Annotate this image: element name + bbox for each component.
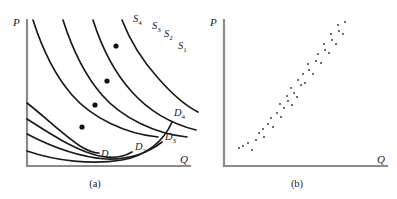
scatter-point bbox=[280, 116, 282, 118]
scatter-point bbox=[323, 43, 325, 45]
scatter-point bbox=[302, 73, 304, 75]
scatter-point bbox=[297, 79, 299, 81]
scatter-point bbox=[320, 62, 322, 64]
panel-a-supply-demand: P Q S1 S2 S3 S4 D1 D2 D3 bbox=[0, 0, 200, 199]
scatter-point bbox=[300, 84, 302, 86]
supply-label-s4: S4 bbox=[133, 13, 142, 27]
scatter-point bbox=[287, 100, 289, 102]
scatter-point bbox=[258, 132, 260, 134]
scatter-point bbox=[328, 52, 330, 54]
scatter-point bbox=[344, 21, 346, 23]
panel-b-axes bbox=[224, 20, 387, 166]
supply-label-s2: S2 bbox=[164, 28, 173, 42]
demand-label-d2: D2 bbox=[134, 141, 147, 155]
supply-label-s1: S1 bbox=[178, 40, 187, 54]
panel-a-caption: (a) bbox=[89, 178, 101, 190]
scatter-point bbox=[338, 30, 340, 32]
panel-b-caption: (b) bbox=[291, 178, 304, 190]
panel-a-axes bbox=[27, 20, 190, 166]
scatter-point bbox=[293, 92, 295, 94]
scatter-point bbox=[276, 112, 278, 114]
equilibrium-dot bbox=[113, 43, 118, 48]
demand-curve-d2 bbox=[27, 119, 132, 157]
panel-b-scatter: P Q (b) bbox=[197, 0, 397, 199]
scatter-point bbox=[290, 87, 292, 89]
scatter-point bbox=[330, 33, 332, 35]
panel-a-x-axis-label: Q bbox=[180, 153, 188, 165]
scatter-point bbox=[283, 107, 285, 109]
scatter-point bbox=[272, 126, 274, 128]
scatter-point bbox=[263, 136, 265, 138]
scatter-point bbox=[251, 149, 253, 151]
equilibrium-dot bbox=[79, 124, 84, 129]
scatter-point-group bbox=[238, 21, 346, 151]
scatter-point bbox=[308, 69, 310, 71]
panel-a-y-axis-label: P bbox=[12, 16, 20, 28]
scatter-point bbox=[315, 60, 317, 62]
scatter-point bbox=[317, 53, 319, 55]
scatter-point bbox=[286, 95, 288, 97]
scatter-point bbox=[242, 145, 244, 147]
figure-container: P Q S1 S2 S3 S4 D1 D2 D3 bbox=[0, 0, 397, 199]
scatter-point bbox=[304, 82, 306, 84]
scatter-point bbox=[296, 96, 298, 98]
demand-label-d1: D1 bbox=[100, 148, 113, 162]
panel-b-x-axis-label: Q bbox=[377, 153, 385, 165]
scatter-point bbox=[247, 142, 249, 144]
scatter-point bbox=[331, 39, 333, 41]
scatter-point bbox=[262, 128, 264, 130]
scatter-point bbox=[267, 123, 269, 125]
scatter-point bbox=[342, 33, 344, 35]
scatter-point bbox=[312, 73, 314, 75]
scatter-point bbox=[335, 43, 337, 45]
scatter-point bbox=[324, 49, 326, 51]
scatter-point bbox=[337, 24, 339, 26]
scatter-point bbox=[279, 103, 281, 105]
scatter-point bbox=[291, 104, 293, 106]
scatter-point bbox=[270, 117, 272, 119]
panel-a-plot: P Q S1 S2 S3 S4 D1 D2 D3 bbox=[0, 0, 200, 199]
demand-label-d4: D4 bbox=[173, 107, 186, 121]
panel-b-y-axis-label: P bbox=[209, 16, 217, 28]
scatter-point bbox=[238, 147, 240, 149]
scatter-point bbox=[307, 63, 309, 65]
panel-b-plot: P Q (b) bbox=[197, 0, 397, 199]
equilibrium-dot bbox=[104, 78, 109, 83]
supply-curve-s1 bbox=[33, 20, 158, 137]
scatter-point bbox=[255, 139, 257, 141]
supply-label-s3: S3 bbox=[152, 20, 161, 34]
demand-label-d3: D3 bbox=[164, 131, 177, 145]
equilibrium-dot bbox=[92, 102, 97, 107]
